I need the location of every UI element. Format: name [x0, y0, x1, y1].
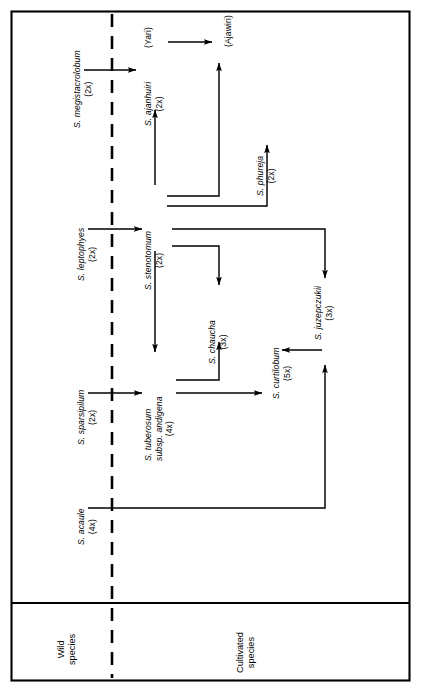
node-ploidy-tuberosum: (4x)	[164, 396, 175, 461]
node-label-megistacrolobum: S. megistacrolobum (2x)	[72, 50, 93, 128]
edge-stenotomum-phureja	[167, 145, 267, 206]
node-ploidy-acaule: (4x)	[87, 508, 98, 545]
node-ploidy-curtilobum: (5x)	[282, 348, 293, 399]
node-label-chaucha: S. chaucha (3x)	[207, 320, 228, 364]
node-ploidy-leptophyes: (2x)	[87, 228, 98, 281]
panel-label-wild: Wild species	[56, 634, 78, 665]
node-name-megistacrolobum: S. megistacrolobum	[72, 50, 82, 128]
node-label-acaule: S. acaule (4x)	[76, 508, 97, 545]
node-ploidy-sparsipilum: (2x)	[87, 390, 98, 445]
node-name-curtilobum: S. curtilobum	[271, 348, 281, 399]
node-label-stenotomum: S. stenotomum (2x)	[143, 231, 164, 290]
node-label-curtilobum: S. curtilobum (5x)	[271, 348, 292, 399]
node-label-ajanhuiri: S. ajanhuiri (2x)	[143, 82, 164, 126]
edge-group	[84, 24, 325, 509]
node-name-yari: (Yari)	[143, 27, 153, 48]
edge-stenotomum-chaucha	[172, 246, 219, 285]
node-name-chaucha: S. chaucha	[207, 320, 217, 364]
node-label-yari: (Yari)	[143, 27, 154, 48]
node-label-leptophyes: S. leptophyes (2x)	[76, 228, 97, 281]
figure-container: S. megistacrolobum (2x) S. ajanhuiri (2x…	[0, 0, 421, 692]
node-name2-tuberosum: subsp. andigena	[154, 396, 165, 461]
panel-label-cultivated-line2: species	[246, 632, 257, 673]
edge-stenotomum-ajawiri	[167, 63, 219, 196]
node-label-phureja: S. phureja (2x)	[255, 156, 276, 196]
panel-label-wild-line2: species	[67, 634, 78, 665]
node-ploidy-phureja: (2x)	[266, 156, 277, 196]
edge-stenotomum-juzepczukii	[172, 229, 325, 278]
node-name-sparsipilum: S. sparsipilum	[76, 390, 86, 445]
node-name-ajawiri: (Ajawiri)	[223, 15, 233, 47]
node-name-tuberosum: S. tuberosum	[143, 409, 153, 461]
node-label-ajawiri: (Ajawiri)	[223, 15, 234, 47]
node-ploidy-juzepczukii: (3x)	[324, 286, 335, 340]
node-label-sparsipilum: S. sparsipilum (2x)	[76, 390, 97, 445]
panel-label-cultivated: Cultivated species	[235, 632, 257, 673]
panel-label-wild-line1: Wild	[56, 640, 66, 658]
node-name-juzepczukii: S. juzepczukii	[313, 286, 323, 340]
node-label-tuberosum: S. tuberosum subsp. andigena (4x)	[143, 396, 175, 461]
node-label-juzepczukii: S. juzepczukii (3x)	[313, 286, 334, 340]
node-ploidy-stenotomum: (2x)	[154, 231, 165, 290]
node-name-ajanhuiri: S. ajanhuiri	[143, 82, 153, 126]
panel-label-cultivated-line1: Cultivated	[235, 632, 245, 673]
node-ploidy-chaucha: (3x)	[218, 320, 229, 364]
node-ploidy-megistacrolobum: (2x)	[83, 50, 94, 128]
node-name-acaule: S. acaule	[76, 508, 86, 545]
node-ploidy-ajanhuiri: (2x)	[154, 82, 165, 126]
node-name-phureja: S. phureja	[255, 156, 265, 196]
node-name-leptophyes: S. leptophyes	[76, 228, 86, 281]
node-name-stenotomum: S. stenotomum	[143, 231, 153, 290]
